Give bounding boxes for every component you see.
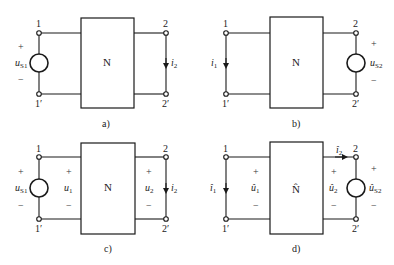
- voltage-source-icon: [347, 54, 365, 72]
- terminal-1-label: 1: [223, 143, 228, 154]
- voltage-source-icon: [30, 54, 48, 72]
- source-label: uS2: [370, 57, 383, 70]
- figure-c: 1 1′ 2 2′ N + − uS1 + − u1 + − u2 i2 c): [15, 143, 178, 255]
- u1-plus: +: [253, 166, 259, 177]
- terminal-1: [224, 155, 229, 160]
- source-minus: −: [18, 200, 24, 211]
- terminal-2p-label: 2′: [352, 98, 359, 109]
- terminal-1-prime: [224, 92, 229, 97]
- source-label: uS1: [15, 182, 28, 195]
- terminal-2: [164, 31, 169, 36]
- u2-minus: −: [331, 200, 337, 211]
- terminal-2-label: 2: [353, 18, 358, 29]
- source-minus: −: [371, 75, 377, 86]
- terminal-1-prime: [37, 217, 42, 222]
- source-plus: +: [371, 38, 377, 49]
- terminal-2-prime: [354, 92, 359, 97]
- terminal-2-label: 2: [353, 143, 358, 154]
- source-plus: +: [18, 166, 24, 177]
- caption-c: c): [104, 243, 112, 255]
- terminal-2: [164, 155, 169, 160]
- caption-a: a): [102, 118, 110, 130]
- terminal-1: [37, 31, 42, 36]
- terminal-2: [354, 155, 359, 160]
- terminal-2-prime: [164, 217, 169, 222]
- two-port-reciprocity-diagram: 1 1′ 2 2′ N + − uS1 i2 a) 1 1′ 2 2′ N i1…: [0, 0, 394, 265]
- figure-b: 1 1′ 2 2′ N i1 + − uS2 b): [211, 17, 383, 130]
- current-label: î1: [210, 182, 217, 195]
- network-label: N: [103, 56, 111, 68]
- terminal-1-label: 1: [36, 143, 41, 154]
- network-label: N̂: [292, 183, 300, 195]
- terminal-1-prime: [224, 217, 229, 222]
- terminal-1-label: 1: [36, 18, 41, 29]
- u2-minus: −: [146, 200, 152, 211]
- network-label: N: [104, 181, 112, 193]
- u2-label: û2: [329, 182, 338, 195]
- top-current-label: î2: [336, 144, 343, 157]
- u1-minus: −: [253, 200, 259, 211]
- terminal-2: [354, 31, 359, 36]
- u2-plus: +: [331, 166, 337, 177]
- source-label: ûS2: [369, 182, 382, 195]
- source-plus: +: [18, 41, 24, 52]
- terminal-2p-label: 2′: [162, 98, 169, 109]
- u2-plus: +: [146, 166, 152, 177]
- source-label: uS1: [15, 57, 28, 70]
- source-minus: −: [18, 74, 24, 85]
- voltage-source-icon: [347, 179, 365, 197]
- u2-label: u2: [145, 182, 154, 195]
- terminal-1-prime: [37, 92, 42, 97]
- terminal-1-label: 1: [223, 18, 228, 29]
- caption-d: d): [292, 243, 300, 255]
- source-minus: −: [371, 200, 377, 211]
- terminal-1p-label: 1′: [35, 98, 42, 109]
- terminal-2p-label: 2′: [352, 223, 359, 234]
- terminal-2-prime: [164, 92, 169, 97]
- voltage-source-icon: [30, 179, 48, 197]
- terminal-2-prime: [354, 217, 359, 222]
- terminal-1: [37, 155, 42, 160]
- current-label: i2: [171, 57, 178, 70]
- terminal-2-label: 2: [163, 18, 168, 29]
- terminal-1p-label: 1′: [222, 98, 229, 109]
- source-plus: +: [371, 163, 377, 174]
- terminal-2p-label: 2′: [162, 223, 169, 234]
- figure-d: 1 1′ 2 2′ N̂ î1 + − û1 î2 + − û2 + − ûS2…: [210, 142, 382, 255]
- network-label: N: [292, 56, 300, 68]
- terminal-1p-label: 1′: [222, 223, 229, 234]
- u1-minus: −: [66, 200, 72, 211]
- current-label: i1: [211, 57, 218, 70]
- terminal-1: [224, 31, 229, 36]
- terminal-2-label: 2: [163, 143, 168, 154]
- current-label: i2: [171, 182, 178, 195]
- caption-b: b): [292, 118, 300, 130]
- figure-a: 1 1′ 2 2′ N + − uS1 i2 a): [15, 18, 178, 130]
- u1-plus: +: [66, 166, 72, 177]
- u1-label: û1: [251, 182, 260, 195]
- terminal-1p-label: 1′: [35, 223, 42, 234]
- u1-label: u1: [64, 182, 73, 195]
